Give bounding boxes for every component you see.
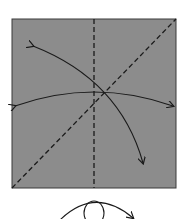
turn-over-symbol (58, 201, 133, 219)
origami-diagram (0, 0, 186, 219)
